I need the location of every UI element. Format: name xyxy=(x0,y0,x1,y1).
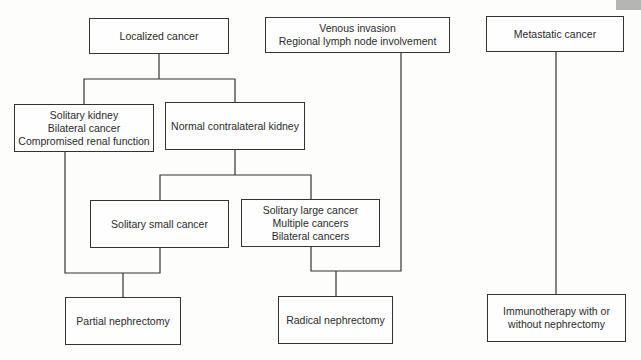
node-label: Multiple cancers xyxy=(273,217,349,230)
node-label: Partial nephrectomy xyxy=(76,315,169,328)
node-label: Venous invasion xyxy=(319,22,395,35)
node-label: Radical nephrectomy xyxy=(286,314,385,327)
node-solitary-kidney: Solitary kidney Bilateral cancer Comprom… xyxy=(14,104,154,152)
node-label: Solitary kidney xyxy=(50,109,118,122)
flowchart-canvas: Localized cancer Venous invasion Regiona… xyxy=(0,0,641,360)
node-label: Bilateral cancers xyxy=(272,230,350,243)
node-label: Localized cancer xyxy=(120,30,199,43)
node-label: Normal contralateral kidney xyxy=(171,120,299,133)
node-label: Compromised renal function xyxy=(18,135,149,148)
node-venous-invasion: Venous invasion Regional lymph node invo… xyxy=(265,17,450,53)
node-partial-nephrectomy: Partial nephrectomy xyxy=(65,297,181,345)
node-radical-nephrectomy: Radical nephrectomy xyxy=(278,296,393,344)
node-label: without nephrectomy xyxy=(508,318,605,331)
node-solitary-large-cancer: Solitary large cancer Multiple cancers B… xyxy=(241,199,380,247)
node-label: Bilateral cancer xyxy=(48,122,120,135)
node-label: Regional lymph node involvement xyxy=(279,35,437,48)
node-solitary-small-cancer: Solitary small cancer xyxy=(90,200,229,248)
node-normal-contralateral-kidney: Normal contralateral kidney xyxy=(165,102,305,150)
node-label: Solitary large cancer xyxy=(263,204,359,217)
node-localized-cancer: Localized cancer xyxy=(89,18,229,54)
node-label: Metastatic cancer xyxy=(514,28,596,41)
node-immunotherapy: Immunotherapy with or without nephrectom… xyxy=(487,294,626,342)
node-metastatic-cancer: Metastatic cancer xyxy=(486,16,624,52)
node-label: Solitary small cancer xyxy=(111,218,208,231)
node-label: Immunotherapy with or xyxy=(503,305,610,318)
